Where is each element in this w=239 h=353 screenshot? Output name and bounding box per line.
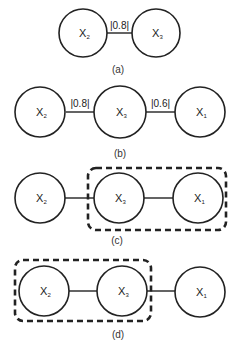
node-x3: X 3 <box>94 86 146 138</box>
node-x3: X 3 <box>94 173 144 223</box>
panel-label: (b) <box>114 148 126 159</box>
node-x3: X 3 <box>97 266 147 316</box>
diagram: |0.8| X 2 X 3 (a) |0.8| |0.6| X 2 X 3 <box>0 0 239 353</box>
edge-weight-label: |0.8| <box>110 20 129 31</box>
node-x1: X 1 <box>175 267 225 317</box>
node-x1: X 1 <box>175 87 225 137</box>
panel-label: (a) <box>112 64 124 75</box>
node-x2: X 2 <box>15 87 65 137</box>
node-x3: X 3 <box>132 9 180 57</box>
node-x1: X 1 <box>173 173 223 223</box>
node-x2: X 2 <box>19 266 69 316</box>
panel-label: (d) <box>112 329 124 340</box>
panel-b: |0.8| |0.6| X 2 X 3 X 1 (b) <box>15 86 225 159</box>
panel-a: |0.8| X 2 X 3 (a) <box>59 9 180 75</box>
panel-label: (c) <box>111 235 123 246</box>
panel-d: X 2 X 3 X 1 (d) <box>15 260 225 340</box>
edge-weight-label: |0.8| <box>70 98 89 109</box>
panel-c: X 2 X 3 X 1 (c) <box>15 168 226 246</box>
edge-weight-label: |0.6| <box>151 98 170 109</box>
node-x2: X 2 <box>15 173 65 223</box>
node-x2: X 2 <box>59 9 107 57</box>
